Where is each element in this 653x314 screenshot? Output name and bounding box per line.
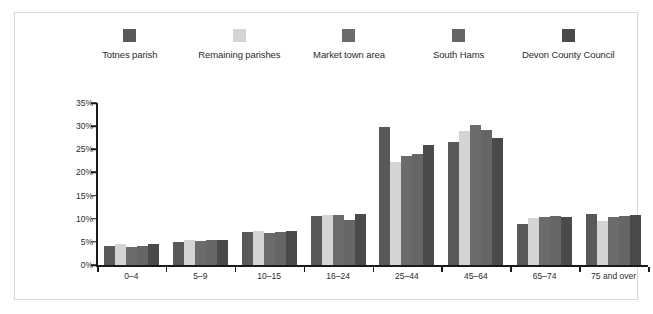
bar-group xyxy=(235,103,304,265)
chart-legend: Totnes parishRemaining parishesMarket to… xyxy=(75,29,623,77)
bar[interactable] xyxy=(630,215,641,265)
legend-swatch-icon xyxy=(562,29,575,42)
x-axis-tick-mark xyxy=(373,267,375,272)
bar[interactable] xyxy=(619,216,630,265)
bar[interactable] xyxy=(115,244,126,265)
bar[interactable] xyxy=(344,220,355,265)
bar[interactable] xyxy=(608,217,619,265)
x-axis-tick-mark xyxy=(97,267,99,272)
bar[interactable] xyxy=(448,142,459,265)
legend-item[interactable]: Devon County Council xyxy=(513,29,623,60)
y-axis-tick-mark xyxy=(91,218,97,220)
bar[interactable] xyxy=(311,216,322,265)
bar[interactable] xyxy=(539,217,550,265)
legend-item[interactable]: Remaining parishes xyxy=(185,29,295,60)
x-axis-tick-mark xyxy=(441,267,443,272)
x-axis-tick-label: 5–9 xyxy=(166,271,235,281)
bar[interactable] xyxy=(104,246,115,265)
x-axis-tick-label: 16–24 xyxy=(304,271,373,281)
x-axis-labels: 0–45–910–1516–2425–4445–6465–7475 and ov… xyxy=(97,271,648,281)
bar-group xyxy=(166,103,235,265)
bar[interactable] xyxy=(423,145,434,265)
legend-item[interactable]: Market town area xyxy=(294,29,404,60)
x-axis-tick-label: 75 and over xyxy=(579,271,648,281)
legend-swatch-icon xyxy=(233,29,246,42)
legend-label: Market town area xyxy=(313,49,385,60)
bar[interactable] xyxy=(517,224,528,265)
x-axis-tick-label: 10–15 xyxy=(235,271,304,281)
bar[interactable] xyxy=(217,240,228,265)
x-axis-tick-mark xyxy=(579,267,581,272)
y-axis-tick-mark xyxy=(91,102,97,104)
bar-group xyxy=(510,103,579,265)
y-axis-tick-mark xyxy=(91,241,97,243)
legend-swatch-icon xyxy=(123,29,136,42)
legend-label: Remaining parishes xyxy=(198,49,280,60)
y-axis-tick-mark xyxy=(91,149,97,151)
bar[interactable] xyxy=(586,214,597,265)
bar[interactable] xyxy=(322,215,333,265)
legend-label: Totnes parish xyxy=(102,49,157,60)
legend-item[interactable]: Totnes parish xyxy=(75,29,185,60)
bar[interactable] xyxy=(184,240,195,265)
x-axis-tick-label: 65–74 xyxy=(510,271,579,281)
legend-label: South Hams xyxy=(433,49,484,60)
x-axis-tick-mark xyxy=(510,267,512,272)
bar[interactable] xyxy=(286,231,297,265)
bar[interactable] xyxy=(492,138,503,265)
bar[interactable] xyxy=(137,246,148,265)
bar-group xyxy=(304,103,373,265)
bar[interactable] xyxy=(333,215,344,265)
bar[interactable] xyxy=(195,241,206,265)
bar[interactable] xyxy=(561,217,572,265)
bar[interactable] xyxy=(355,214,366,265)
x-axis-tick-mark xyxy=(166,267,168,272)
y-axis-tick-mark xyxy=(91,264,97,266)
bar[interactable] xyxy=(481,130,492,265)
bar[interactable] xyxy=(401,156,412,265)
plot-area: 0%5%10%15%20%25%30%35% 0–45–910–1516–242… xyxy=(65,95,653,283)
bar[interactable] xyxy=(206,240,217,265)
bar[interactable] xyxy=(597,221,608,265)
y-axis-tick-mark xyxy=(91,195,97,197)
bar[interactable] xyxy=(470,125,481,265)
bar[interactable] xyxy=(379,127,390,265)
y-axis-tick-mark xyxy=(91,172,97,174)
chart-frame: Totnes parishRemaining parishesMarket to… xyxy=(14,12,638,300)
x-axis-tick-label: 45–64 xyxy=(441,271,510,281)
bar[interactable] xyxy=(550,216,561,265)
bar[interactable] xyxy=(390,162,401,265)
y-axis-labels: 0%5%10%15%20%25%30%35% xyxy=(65,95,93,265)
legend-swatch-icon xyxy=(342,29,355,42)
legend-swatch-icon xyxy=(452,29,465,42)
x-axis-tick-mark xyxy=(235,267,237,272)
bar[interactable] xyxy=(264,233,275,265)
bar-group xyxy=(441,103,510,265)
bar-group xyxy=(579,103,648,265)
bar[interactable] xyxy=(275,232,286,265)
bar[interactable] xyxy=(412,154,423,265)
bar[interactable] xyxy=(173,242,184,265)
bar[interactable] xyxy=(528,218,539,265)
y-axis-tick-mark xyxy=(91,125,97,127)
x-axis-tick-label: 0–4 xyxy=(97,271,166,281)
bar[interactable] xyxy=(253,231,264,265)
x-axis-tick-label: 25–44 xyxy=(373,271,442,281)
x-axis-tick-mark xyxy=(304,267,306,272)
bar[interactable] xyxy=(126,247,137,266)
bars-region xyxy=(97,103,648,265)
bar[interactable] xyxy=(242,232,253,265)
legend-item[interactable]: South Hams xyxy=(404,29,514,60)
bar-group xyxy=(97,103,166,265)
bar-group xyxy=(373,103,442,265)
x-axis-tick-mark xyxy=(648,267,650,272)
legend-label: Devon County Council xyxy=(522,49,615,60)
bar[interactable] xyxy=(459,131,470,265)
bar[interactable] xyxy=(148,244,159,265)
